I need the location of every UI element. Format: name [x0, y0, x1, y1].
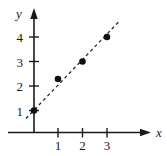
data-point: [104, 34, 111, 41]
y-tick-label-2: 2: [9, 80, 23, 93]
y-axis-label: y: [16, 7, 22, 20]
y-tick-label-1: 1: [9, 105, 23, 118]
data-point-markers: [31, 34, 111, 114]
y-tick-label-4: 4: [9, 31, 23, 44]
x-tick-label-2: 2: [76, 139, 90, 152]
y-axis-arrowhead: [30, 8, 37, 19]
y-tick-label-3: 3: [9, 56, 23, 69]
data-point: [55, 76, 62, 83]
x-tick-label-1: 1: [51, 139, 65, 152]
scatter-plot-figure: 4 3 2 1 1 2 3 y x: [0, 0, 167, 156]
data-point: [31, 107, 38, 114]
data-point: [79, 58, 86, 65]
x-axis-arrowhead: [140, 129, 151, 136]
x-axis-label: x: [156, 126, 162, 139]
coordinate-plane-graphic: [0, 0, 167, 156]
x-tick-label-3: 3: [100, 139, 114, 152]
